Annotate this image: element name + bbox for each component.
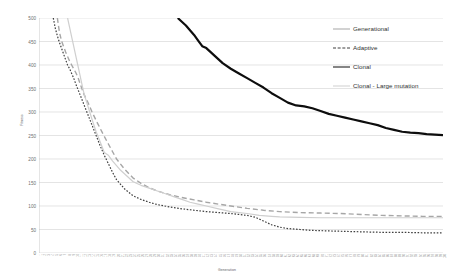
x-tick-label: 64 [297,254,300,257]
x-tick-label: 94 [420,254,423,257]
x-tick-label: 51 [244,254,247,257]
x-tick-label: 34 [175,254,178,257]
x-tick-label: 26 [142,254,145,257]
y-tick-label: 250 [10,133,36,138]
x-tick-label: 86 [387,254,390,257]
x-tick-label: 6 [60,254,63,255]
x-tick-label: 35 [179,254,182,257]
x-tick-label: 93 [415,254,418,257]
x-tick-label: 72 [330,254,333,257]
x-tick-label: 62 [289,254,292,257]
legend-label-clonal: Clonal [353,63,371,70]
x-tick-label: 85 [383,254,386,257]
x-tick-label: 13 [89,254,92,257]
x-tick-label: 60 [281,254,284,257]
x-tick-label: 47 [228,254,231,257]
x-tick-label: 1 [40,254,43,255]
y-tick-label: 100 [10,204,36,209]
y-tick-label: 150 [10,180,36,185]
x-tick-label: 9 [73,254,76,255]
x-tick-label: 7 [64,254,67,255]
x-tick-label: 36 [183,254,186,257]
x-tick-label: 42 [207,254,210,257]
fitness-vs-generation-chart: Fitness 050100150200250300350400450500 1… [0,0,454,280]
x-tick-label: 43 [211,254,214,257]
legend-label-adaptive: Adaptive [353,44,377,51]
x-tick-label: 55 [260,254,263,257]
x-tick-label: 77 [350,254,353,257]
x-tick-label: 44 [215,254,218,257]
x-tick-label: 61 [285,254,288,257]
y-tick-label: 400 [10,63,36,68]
x-tick-label: 82 [371,254,374,257]
x-tick-label: 83 [375,254,378,257]
x-tick-label: 56 [264,254,267,257]
x-tick-label: 18 [109,254,112,257]
x-tick-label: 21 [122,254,125,257]
x-tick-label: 59 [277,254,280,257]
x-tick-label: 88 [395,254,398,257]
x-tick-label: 23 [130,254,133,257]
legend-label-clonal-large-mutation: Clonal - Large mutation [353,82,418,89]
x-tick-label: 14 [93,254,96,257]
chart-legend: Generational Adaptive Clonal Clonal - La… [333,19,453,95]
x-tick-label: 96 [428,254,431,257]
legend-line-clonal-icon [333,63,350,70]
x-tick-label: 70 [322,254,325,257]
x-tick-label: 74 [338,254,341,257]
x-tick-label: 54 [256,254,259,257]
x-tick-label: 12 [85,254,88,257]
x-tick-label: 3 [48,254,51,255]
x-tick-label: 71 [326,254,329,257]
x-tick-label: 29 [154,254,157,257]
x-tick-label: 45 [220,254,223,257]
x-tick-label: 5 [56,254,59,255]
legend-item-clonal[interactable]: Clonal [333,57,453,76]
legend-line-adaptive-icon [333,44,350,51]
x-tick-label: 10 [77,254,80,257]
x-tick-label: 65 [301,254,304,257]
x-tick-label: 79 [358,254,361,257]
x-tick-label: 63 [293,254,296,257]
y-tick-label: 500 [10,16,36,21]
x-tick-label: 20 [118,254,121,257]
x-tick-label: 39 [195,254,198,257]
x-tick-label: 100 [444,254,447,258]
x-tick-label: 78 [354,254,357,257]
x-tick-label: 49 [236,254,239,257]
x-tick-label: 92 [411,254,414,257]
x-tick-label: 22 [126,254,129,257]
x-tick-label: 97 [432,254,435,257]
x-tick-label: 17 [105,254,108,257]
legend-item-adaptive[interactable]: Adaptive [333,38,453,57]
x-tick-label: 48 [232,254,235,257]
x-tick-label: 58 [273,254,276,257]
y-tick-label: 350 [10,86,36,91]
x-tick-label: 27 [146,254,149,257]
legend-line-generational-icon [333,25,350,32]
x-tick-label: 91 [407,254,410,257]
x-tick-label: 67 [309,254,312,257]
y-tick-label: 450 [10,39,36,44]
x-axis-title: Generation [0,268,454,272]
y-tick-label: 0 [10,251,36,256]
x-tick-label: 38 [191,254,194,257]
x-tick-label: 4 [52,254,55,255]
x-tick-label: 52 [248,254,251,257]
x-tick-label: 50 [240,254,243,257]
x-tick-label: 19 [113,254,116,257]
x-tick-label: 41 [203,254,206,257]
x-tick-label: 53 [252,254,255,257]
x-tick-label: 40 [199,254,202,257]
x-tick-label: 99 [440,254,443,257]
x-tick-label: 8 [69,254,72,255]
legend-label-generational: Generational [353,25,389,32]
y-tick-label: 200 [10,157,36,162]
legend-item-generational[interactable]: Generational [333,19,453,38]
x-tick-label: 46 [224,254,227,257]
legend-item-clonal-large-mutation[interactable]: Clonal - Large mutation [333,76,453,95]
x-tick-label: 16 [101,254,104,257]
x-tick-label: 95 [424,254,427,257]
x-axis-tick-labels: 1234567891011121314151617181920212223242… [39,254,443,268]
x-tick-label: 24 [134,254,137,257]
